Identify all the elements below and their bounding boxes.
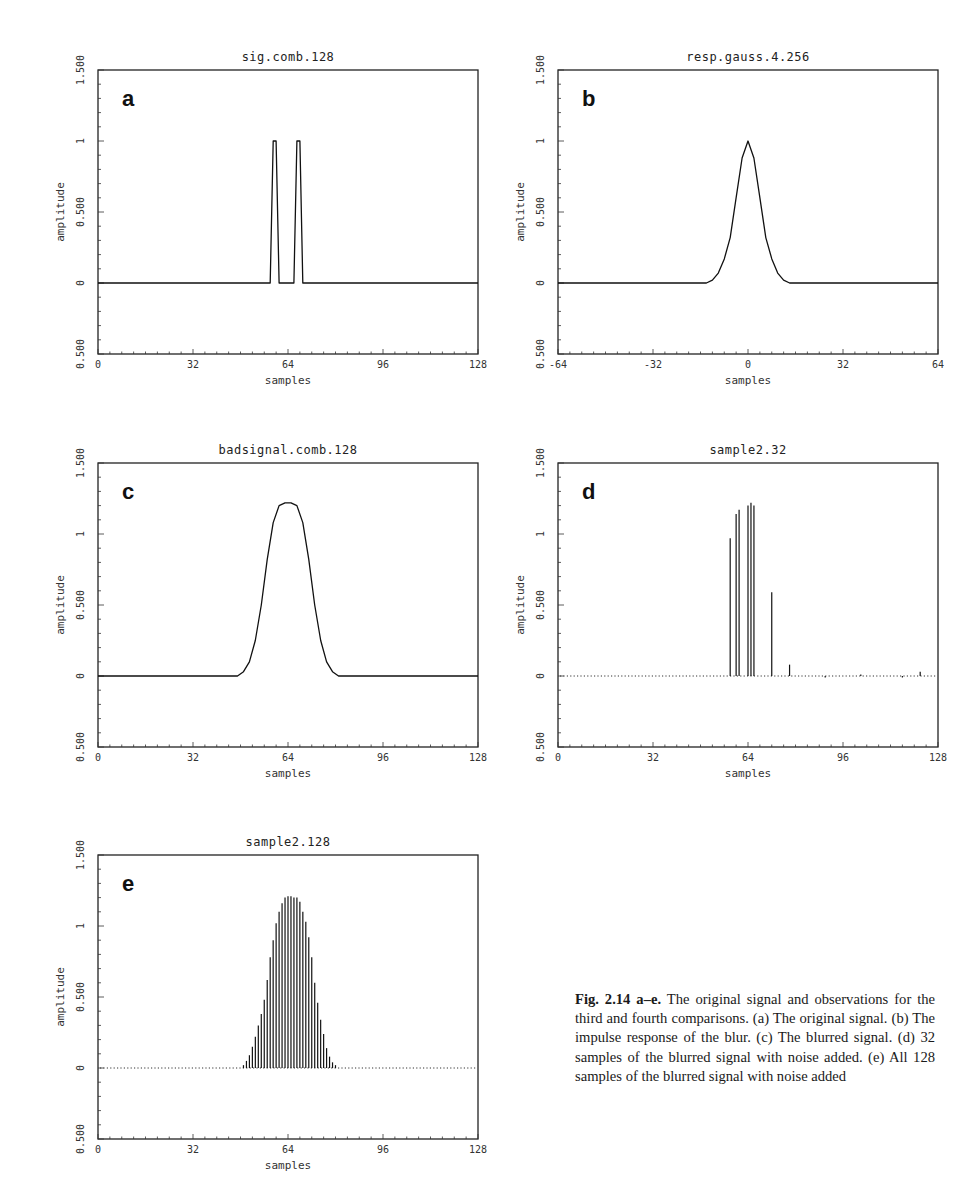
y-tick-label: 0.500 [535, 732, 546, 762]
y-tick-label: 0.500 [535, 339, 546, 369]
y-tick-label: 0.500 [535, 590, 546, 620]
chart-b: resp.gauss.4.256b0.50000.50011.500amplit… [500, 40, 940, 380]
signal-line [98, 141, 478, 283]
x-tick-label: 64 [932, 359, 944, 370]
x-tick-label: 64 [282, 752, 294, 763]
signal-line [558, 141, 938, 283]
x-tick-label: 64 [282, 359, 294, 370]
y-tick-label: 0.500 [75, 197, 86, 227]
x-tick-label: 96 [377, 359, 389, 370]
plot-frame [98, 463, 478, 747]
y-axis-label: amplitude [514, 182, 527, 242]
y-tick-label: 1 [75, 138, 86, 144]
x-tick-label: 32 [187, 1144, 199, 1155]
chart-c: badsignal.comb.128c0.50000.50011.500ampl… [40, 433, 480, 773]
x-tick-label: 128 [469, 359, 487, 370]
caption-label: Fig. 2.14 a–e. [575, 991, 661, 1007]
y-tick-label: 1.500 [75, 55, 86, 85]
x-axis-label: samples [725, 767, 771, 780]
y-tick-label: 0.500 [75, 339, 86, 369]
chart-d: sample2.32d0.50000.50011.500amplitude032… [500, 433, 940, 773]
x-tick-label: -64 [549, 359, 567, 370]
y-axis-label: amplitude [514, 575, 527, 635]
figure-caption: Fig. 2.14 a–e. The original signal and o… [575, 990, 935, 1086]
x-tick-label: 96 [837, 752, 849, 763]
chart-panel-a: sig.comb.128a0.50000.50011.500amplitude0… [40, 40, 480, 380]
panel-letter: e [122, 871, 134, 896]
panel-letter: d [582, 479, 595, 504]
y-tick-label: 1.500 [535, 55, 546, 85]
chart-e: sample2.128e0.50000.50011.500amplitude03… [40, 825, 480, 1165]
x-tick-label: 64 [742, 752, 754, 763]
panel-letter: b [582, 86, 595, 111]
chart-title: resp.gauss.4.256 [686, 50, 810, 64]
chart-panel-c: badsignal.comb.128c0.50000.50011.500ampl… [40, 433, 480, 773]
y-tick-label: 0 [75, 673, 86, 679]
y-tick-label: 1.500 [75, 840, 86, 870]
chart-panel-d: sample2.32d0.50000.50011.500amplitude032… [500, 433, 940, 773]
y-tick-label: 1.500 [535, 448, 546, 478]
x-tick-label: 32 [187, 752, 199, 763]
x-axis-label: samples [265, 767, 311, 780]
y-tick-label: 1 [75, 923, 86, 929]
y-tick-label: 0 [75, 280, 86, 286]
x-tick-label: 0 [95, 752, 101, 763]
chart-title: sample2.32 [709, 443, 786, 457]
chart-a: sig.comb.128a0.50000.50011.500amplitude0… [40, 40, 480, 380]
y-tick-label: 0.500 [535, 197, 546, 227]
y-axis-label: amplitude [54, 182, 67, 242]
x-tick-label: 0 [745, 359, 751, 370]
x-tick-label: 128 [929, 752, 947, 763]
plot-frame [98, 70, 478, 354]
y-tick-label: 0 [535, 280, 546, 286]
x-tick-label: 128 [469, 1144, 487, 1155]
y-tick-label: 0.500 [75, 1124, 86, 1154]
x-tick-label: -32 [644, 359, 662, 370]
x-tick-label: 0 [95, 359, 101, 370]
x-tick-label: 32 [647, 752, 659, 763]
y-axis-label: amplitude [54, 575, 67, 635]
x-axis-label: samples [725, 374, 771, 387]
plot-frame [558, 70, 938, 354]
chart-panel-e: sample2.128e0.50000.50011.500amplitude03… [40, 825, 480, 1165]
chart-panel-b: resp.gauss.4.256b0.50000.50011.500amplit… [500, 40, 940, 380]
x-tick-label: 96 [377, 1144, 389, 1155]
x-tick-label: 64 [282, 1144, 294, 1155]
x-tick-label: 96 [377, 752, 389, 763]
y-tick-label: 1 [535, 138, 546, 144]
y-tick-label: 1 [75, 531, 86, 537]
y-tick-label: 1 [535, 531, 546, 537]
y-tick-label: 0.500 [75, 982, 86, 1012]
x-tick-label: 0 [95, 1144, 101, 1155]
chart-title: sample2.128 [246, 835, 331, 849]
panel-letter: a [122, 86, 135, 111]
x-tick-label: 128 [469, 752, 487, 763]
y-tick-label: 0 [75, 1065, 86, 1071]
y-tick-label: 1.500 [75, 448, 86, 478]
x-axis-label: samples [265, 1159, 311, 1172]
x-axis-label: samples [265, 374, 311, 387]
y-tick-label: 0.500 [75, 732, 86, 762]
chart-title: badsignal.comb.128 [218, 443, 357, 457]
y-tick-label: 0 [535, 673, 546, 679]
y-axis-label: amplitude [54, 967, 67, 1027]
x-tick-label: 32 [187, 359, 199, 370]
panel-letter: c [122, 479, 134, 504]
x-tick-label: 0 [555, 752, 561, 763]
y-tick-label: 0.500 [75, 590, 86, 620]
chart-title: sig.comb.128 [242, 50, 335, 64]
x-tick-label: 32 [837, 359, 849, 370]
signal-line [98, 503, 478, 676]
